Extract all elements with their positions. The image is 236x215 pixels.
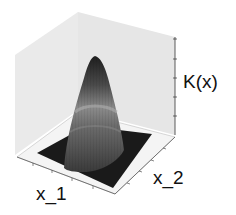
z-axis-label: K(x)	[183, 71, 218, 92]
x1-axis-label: x_1	[36, 183, 67, 205]
surface-plot: K(x) x_2 x_1	[0, 0, 236, 215]
x2-axis-label: x_2	[153, 167, 184, 189]
